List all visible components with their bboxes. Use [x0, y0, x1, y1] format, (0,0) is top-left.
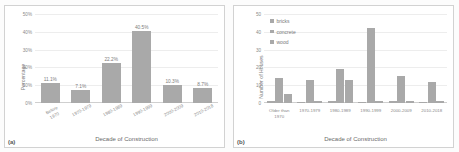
- bar: [306, 80, 314, 103]
- legend-swatch-icon: [270, 30, 274, 34]
- bar: [397, 76, 405, 103]
- y-tick: 0%: [25, 101, 32, 106]
- legend-item: bricks: [270, 18, 296, 24]
- x-tick-label: 1980-1989: [325, 108, 356, 134]
- bar-group: 40.5%: [127, 14, 158, 103]
- bar: [267, 101, 275, 103]
- bar: [419, 102, 427, 103]
- bar-data-label: 8.7%: [197, 82, 208, 87]
- legend-b: bricksconcretewood: [270, 18, 296, 50]
- y-tick: 10%: [23, 83, 32, 88]
- legend-label: bricks: [277, 18, 290, 24]
- x-tick-label: 1990-1999: [127, 108, 158, 134]
- y-tick: 0: [258, 101, 261, 106]
- bar: [436, 101, 444, 103]
- bar: [428, 82, 436, 103]
- y-tick: 20%: [23, 65, 32, 70]
- bar: 11.1%: [41, 83, 60, 103]
- bar-group: [356, 14, 387, 103]
- x-tick-label: 2000-2009: [157, 108, 188, 134]
- y-tick: 20: [256, 65, 261, 70]
- legend-item: wood: [270, 39, 296, 45]
- bar-group: [417, 14, 448, 103]
- bar-data-label: 40.5%: [135, 25, 149, 30]
- bar: [284, 94, 292, 103]
- bar-group: [386, 14, 417, 103]
- bar: [297, 102, 305, 103]
- y-tick: 10: [256, 83, 261, 88]
- bar: 8.7%: [193, 88, 212, 103]
- y-tick: 40%: [23, 29, 32, 34]
- bar: 22.2%: [102, 63, 121, 103]
- bar-series-a: 11.1%7.1%22.2%40.5%10.3%8.7%: [35, 14, 218, 103]
- plot-area-a: 50% 40% 30% 20% 10% 0% 11.1%7.1%22.2%40.…: [35, 14, 218, 103]
- legend-item: concrete: [270, 29, 296, 35]
- x-tick-label: 2010-2018: [417, 108, 448, 134]
- y-tick: 30: [256, 47, 261, 52]
- bar-group: 11.1%: [35, 14, 66, 103]
- bar-group: [295, 14, 326, 103]
- x-tick-label: 1970-1979: [295, 108, 326, 134]
- y-tick: 50: [256, 12, 261, 17]
- y-axis-label-b: Number of Houses: [258, 55, 264, 98]
- bar: [336, 69, 344, 103]
- figure-container: Percentage 50% 40% 30% 20% 10% 0% 11.1%7…: [0, 0, 459, 152]
- bar: [389, 101, 397, 103]
- panel-b: Number of Houses 50 40 30 20 10 0 bricks…: [229, 0, 458, 152]
- bar: [367, 28, 375, 103]
- x-tick-label: Before 1970: [35, 108, 66, 134]
- bar: [314, 101, 322, 103]
- bar-group: 8.7%: [188, 14, 219, 103]
- x-tick-label: Older than 1970: [264, 108, 295, 134]
- bar-data-label: 10.3%: [165, 79, 179, 84]
- legend-label: concrete: [277, 29, 296, 35]
- x-axis-label-b: Decade of Construction: [264, 136, 447, 142]
- x-tick-label: 1990-1999: [356, 108, 387, 134]
- x-axis-label-a: Decade of Construction: [35, 136, 218, 142]
- bar: [345, 80, 353, 103]
- panel-a: Percentage 50% 40% 30% 20% 10% 0% 11.1%7…: [0, 0, 229, 152]
- panel-a-frame: Percentage 50% 40% 30% 20% 10% 0% 11.1%7…: [4, 5, 225, 148]
- legend-label: wood: [277, 39, 289, 45]
- x-tick-label: 1980-1989: [96, 108, 127, 134]
- panel-label-b: (b): [237, 139, 245, 145]
- bar-data-label: 22.2%: [104, 57, 118, 62]
- x-tick-labels-a: Before 19701970-19791980-19891990-199920…: [35, 108, 218, 134]
- bar-data-label: 11.1%: [44, 77, 57, 82]
- panel-label-a: (a): [8, 139, 15, 145]
- x-tick-label: 2000-2009: [386, 108, 417, 134]
- panel-b-frame: Number of Houses 50 40 30 20 10 0 bricks…: [233, 5, 454, 148]
- bar: 7.1%: [71, 90, 90, 103]
- x-tick-label: 2010-2018: [188, 108, 219, 134]
- x-tick-label: 1970-1979: [66, 108, 97, 134]
- bar-group: 10.3%: [157, 14, 188, 103]
- bar: [275, 78, 283, 103]
- bar: 10.3%: [163, 85, 182, 103]
- bar: 40.5%: [132, 31, 151, 103]
- legend-swatch-icon: [270, 40, 274, 44]
- y-tick: 30%: [23, 47, 32, 52]
- bar: [375, 101, 383, 103]
- y-tick: 50%: [23, 12, 32, 17]
- bar: [358, 102, 366, 103]
- legend-swatch-icon: [270, 19, 274, 23]
- bar-group: [325, 14, 356, 103]
- bar-group: 22.2%: [96, 14, 127, 103]
- x-tick-labels-b: Older than 19701970-19791980-19891990-19…: [264, 108, 447, 134]
- bar: [328, 101, 336, 103]
- bar-data-label: 7.1%: [75, 84, 86, 89]
- bar-group: 7.1%: [66, 14, 97, 103]
- y-tick: 40: [256, 29, 261, 34]
- bar: [406, 101, 414, 103]
